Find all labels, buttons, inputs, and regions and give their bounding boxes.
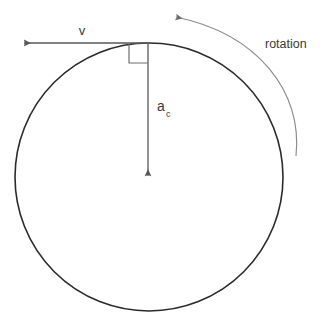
- right-angle-marker: [129, 44, 148, 63]
- diagram-canvas: v a c rotation: [0, 0, 329, 325]
- circular-path: [15, 43, 283, 311]
- velocity-label: v: [79, 23, 86, 38]
- acceleration-label: a: [157, 98, 165, 114]
- rotation-label: rotation: [265, 37, 307, 51]
- centripetal-acceleration-diagram: v a c rotation: [0, 0, 329, 325]
- acceleration-label-subscript: c: [166, 109, 171, 119]
